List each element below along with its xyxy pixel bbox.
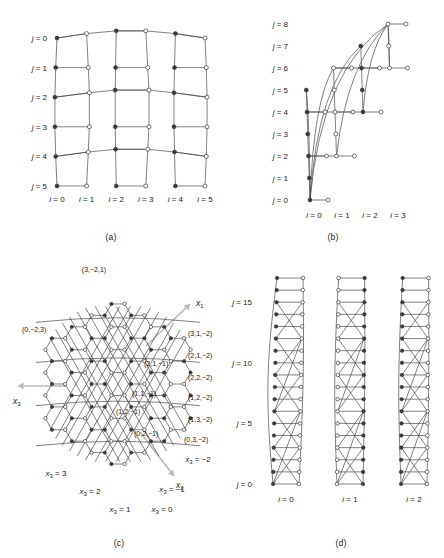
coordinate-label: (2,2,−2) — [188, 374, 212, 382]
x3-level-label: x3 = 0 — [151, 505, 173, 515]
panel-b-col-labels: i = 0i = 1i = 2i = 3 — [306, 211, 406, 220]
axis-tick-label: j = 4 — [31, 152, 48, 161]
panel-a-caption: (a) — [0, 232, 222, 242]
panel-a-edges — [55, 31, 207, 186]
axis-tick-label: j = 10 — [231, 359, 252, 368]
axis-tick-label: i = 2 — [362, 211, 378, 220]
axis-tick-label: j = 3 — [272, 130, 289, 139]
axis-tick-label: j = 4 — [272, 108, 289, 117]
axis-tick-label: j = 8 — [272, 20, 289, 29]
panel-b-caption: (b) — [222, 232, 444, 242]
panel-a-diagram: j = 0j = 1j = 2j = 3j = 4j = 5 i = 0i = … — [0, 0, 222, 252]
axis-tick-label: j = 3 — [31, 123, 48, 132]
coordinate-label: (0,−2,3) — [22, 326, 46, 334]
axis-tick-label: i = 1 — [79, 195, 95, 204]
axis-tick-label: j = 2 — [31, 93, 48, 102]
x3-level-label: x3 = 3 — [45, 469, 67, 479]
panel-d-caption: (d) — [238, 538, 444, 548]
axis-tick-label: i = 1 — [334, 211, 350, 220]
coordinate-label: (1,3,−2) — [188, 416, 212, 424]
axis-tick-label: j = 5 — [236, 419, 253, 428]
panel-d: j = 0j = 5j = 10j = 15 i = 0i = 1i = 2 (… — [238, 252, 444, 558]
axis-name-x3: x3 — [12, 396, 21, 407]
x3-level-label: x3 = 2 — [79, 487, 101, 497]
axis-arrow-x3 — [18, 382, 66, 389]
panel-d-diagram: j = 0j = 5j = 10j = 15 i = 0i = 1i = 2 — [238, 252, 444, 558]
axis-tick-label: j = 5 — [272, 86, 289, 95]
axis-tick-label: i = 1 — [342, 495, 358, 504]
panel-c-level-labels: x3 = 3x3 = 2x3 = 1x3 = 0x3 = −1x3 = −2 — [45, 455, 212, 515]
panel-c-coordinate-labels: (3,−2,1)(0,−2,3)(3,1,−2)(2,1,−2)(2,1,−1)… — [22, 266, 212, 444]
axis-tick-label: i = 4 — [168, 195, 184, 204]
coordinate-label: (3,−2,1) — [82, 266, 106, 274]
x3-level-label: x3 = −2 — [184, 455, 211, 465]
panel-c: (3,−2,1)(0,−2,3)(3,1,−2)(2,1,−2)(2,1,−1)… — [0, 252, 238, 558]
axis-tick-label: i = 3 — [390, 211, 406, 220]
panel-b-row-labels: j = 0j = 1j = 2j = 3j = 4j = 5j = 6j = 7… — [272, 20, 289, 205]
coordinate-label: (2,1,−1) — [144, 360, 168, 368]
panel-d-col-labels: i = 0i = 1i = 2 — [278, 495, 422, 504]
coordinate-label: (0,2,−1) — [134, 430, 158, 438]
axis-tick-label: i = 0 — [306, 211, 322, 220]
axis-name-x1: x1 — [195, 298, 204, 309]
figure-sheet: j = 0j = 1j = 2j = 3j = 4j = 5 i = 0i = … — [0, 0, 444, 558]
panel-b: j = 0j = 1j = 2j = 3j = 4j = 5j = 6j = 7… — [222, 0, 444, 252]
axis-tick-label: j = 1 — [31, 64, 48, 73]
axis-tick-label: j = 0 — [31, 34, 48, 43]
axis-tick-label: j = 2 — [272, 152, 289, 161]
panel-a: j = 0j = 1j = 2j = 3j = 4j = 5 i = 0i = … — [0, 0, 222, 252]
axis-tick-label: i = 5 — [197, 195, 213, 204]
coordinate-label: (1,1,−1) — [132, 390, 156, 398]
coordinate-label: (1,2,−2) — [188, 394, 212, 402]
panel-a-nodes — [53, 29, 209, 188]
axis-tick-label: j = 6 — [272, 64, 289, 73]
axis-tick-label: j = 1 — [272, 174, 289, 183]
axis-tick-label: j = 0 — [236, 480, 253, 489]
panel-b-diagram: j = 0j = 1j = 2j = 3j = 4j = 5j = 6j = 7… — [222, 0, 444, 252]
axis-tick-label: j = 15 — [231, 298, 252, 307]
axis-tick-label: i = 0 — [278, 495, 294, 504]
axis-name-x2: x2 — [175, 480, 184, 491]
coordinate-label: (2,1,−2) — [188, 352, 212, 360]
panel-b-edges — [306, 24, 407, 200]
axis-tick-label: j = 0 — [272, 196, 289, 205]
axis-tick-label: i = 0 — [49, 195, 65, 204]
axis-tick-label: j = 5 — [31, 182, 48, 191]
axis-tick-label: i = 2 — [406, 495, 422, 504]
coordinate-label: (1,2,−1) — [116, 408, 140, 416]
axis-tick-label: i = 2 — [109, 195, 125, 204]
coordinate-label: (0,3,−2) — [184, 436, 208, 444]
axis-tick-label: i = 3 — [138, 195, 154, 204]
panel-a-row-labels: j = 0j = 1j = 2j = 3j = 4j = 5 — [31, 34, 48, 191]
panel-c-caption: (c) — [0, 538, 238, 548]
coordinate-label: (3,1,−2) — [188, 330, 212, 338]
panel-d-edges — [268, 278, 429, 484]
axis-tick-label: j = 7 — [272, 42, 289, 51]
x3-level-label: x3 = 1 — [109, 505, 131, 515]
panel-c-diagram: (3,−2,1)(0,−2,3)(3,1,−2)(2,1,−2)(2,1,−1)… — [0, 252, 238, 558]
panel-a-col-labels: i = 0i = 1i = 2i = 3i = 4i = 5 — [49, 195, 213, 204]
